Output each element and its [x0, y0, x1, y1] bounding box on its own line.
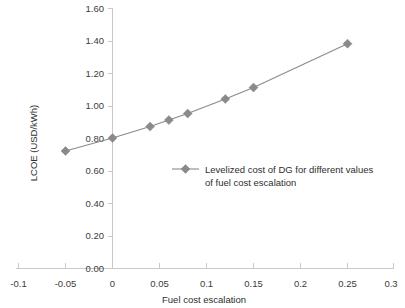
data-point-marker [343, 39, 352, 48]
x-tick-labels: -0.1 -0.05 0 0.05 0.1 0.15 0.2 0.25 0.3 [10, 278, 397, 289]
x-axis-ticks [19, 263, 394, 269]
x-tick-label: 0.3 [384, 278, 397, 289]
data-point-marker [183, 109, 192, 118]
y-tick-label: 1.40 [86, 35, 105, 46]
y-tick-label: 0.00 [86, 263, 105, 274]
y-axis-title: LCOE (USD/kWh) [28, 105, 39, 182]
legend-diamond-icon [181, 165, 190, 174]
line-chart: 1.60 1.40 1.20 1.00 0.80 0.60 0.40 0.20 … [0, 0, 405, 308]
y-tick-label: 0.60 [86, 165, 105, 176]
data-point-marker [146, 122, 155, 131]
y-tick-label: 0.80 [86, 133, 105, 144]
data-point-marker [61, 147, 70, 156]
x-tick-label: -0.1 [10, 278, 26, 289]
x-tick-label: 0.2 [294, 278, 307, 289]
data-point-marker [221, 95, 230, 104]
legend-label-line2: of fuel cost escalation [205, 177, 296, 188]
data-point-marker [108, 134, 117, 143]
x-tick-label: -0.05 [55, 278, 77, 289]
x-tick-label: 0.1 [200, 278, 213, 289]
chart-legend: Levelized cost of DG for different value… [172, 164, 374, 188]
chart-container: 1.60 1.40 1.20 1.00 0.80 0.60 0.40 0.20 … [0, 0, 405, 308]
series-levelized-cost-of-dg [61, 39, 352, 155]
y-tick-label: 1.20 [86, 68, 105, 79]
y-tick-labels: 1.60 1.40 1.20 1.00 0.80 0.60 0.40 0.20 … [86, 3, 105, 274]
y-tick-label: 1.60 [86, 3, 105, 14]
data-point-marker [164, 116, 173, 125]
x-tick-label: 0.15 [244, 278, 263, 289]
y-tick-label: 1.00 [86, 100, 105, 111]
y-tick-label: 0.20 [86, 230, 105, 241]
series-line [66, 44, 348, 151]
x-tick-label: 0.05 [150, 278, 169, 289]
series-markers [61, 39, 352, 155]
legend-label-line1: Levelized cost of DG for different value… [205, 164, 374, 175]
x-axis-title: Fuel cost escalation [162, 294, 246, 305]
y-tick-label: 0.40 [86, 198, 105, 209]
x-tick-label: 0 [110, 278, 115, 289]
x-tick-label: 0.25 [338, 278, 357, 289]
data-point-marker [249, 83, 258, 92]
